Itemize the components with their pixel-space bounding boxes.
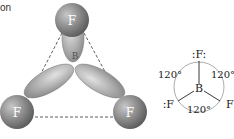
lewis-structure: B :F: :F F 120° 120° 120° bbox=[158, 48, 234, 115]
svg-text::F:: :F: bbox=[192, 48, 207, 61]
bf3-diagram: F F F B B :F: :F F 120° 120° 120° bbox=[0, 0, 234, 139]
svg-text:B: B bbox=[72, 51, 79, 61]
fluorine-atoms: F F F bbox=[0, 3, 147, 129]
svg-text:120°: 120° bbox=[158, 69, 182, 80]
svg-text:F: F bbox=[68, 14, 76, 28]
svg-text:120°: 120° bbox=[187, 104, 211, 115]
svg-text:F: F bbox=[226, 98, 234, 111]
svg-text:B: B bbox=[195, 82, 203, 95]
svg-text:120°: 120° bbox=[211, 69, 234, 80]
svg-text::F: :F bbox=[163, 98, 175, 111]
svg-text:F: F bbox=[126, 106, 134, 120]
svg-text:F: F bbox=[13, 106, 21, 120]
